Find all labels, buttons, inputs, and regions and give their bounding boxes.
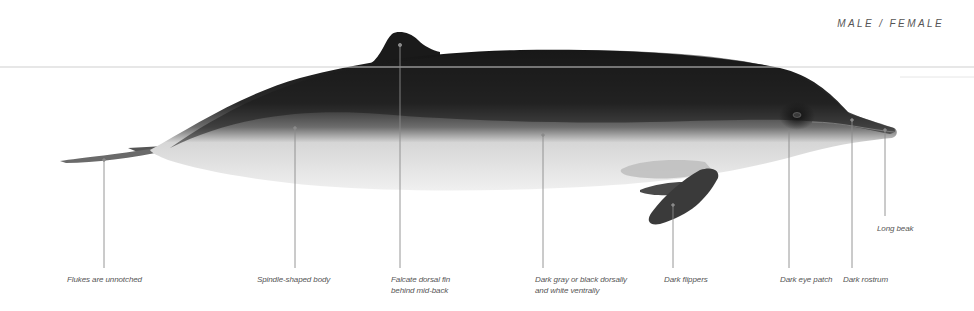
callout-beak: Long beak xyxy=(877,223,913,234)
callout-body: Spindle-shaped body xyxy=(257,274,330,285)
callout-eye-patch: Dark eye patch xyxy=(780,274,832,285)
callout-coloration: Dark gray or black dorsally and white ve… xyxy=(535,274,627,296)
eye xyxy=(793,113,801,118)
callout-rostrum: Dark rostrum xyxy=(843,274,888,285)
whale-illustration xyxy=(0,0,974,311)
callout-flippers: Dark flippers xyxy=(664,274,708,285)
callout-flukes: Flukes are unnotched xyxy=(67,274,142,285)
callout-dorsal-fin: Falcate dorsal fin behind mid-back xyxy=(391,274,450,296)
